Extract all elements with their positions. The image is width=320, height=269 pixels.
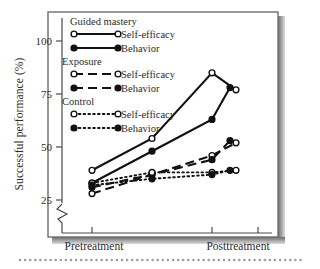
data-point-marker — [149, 176, 155, 182]
decorative-dot — [218, 259, 221, 262]
decorative-dot — [294, 259, 297, 262]
decorative-dot — [248, 259, 251, 262]
decorative-dot — [146, 259, 149, 262]
decorative-dot — [202, 259, 205, 262]
decorative-dot — [156, 259, 159, 262]
decorative-dot — [182, 259, 185, 262]
decorative-dot — [233, 259, 236, 262]
decorative-dot — [162, 259, 165, 262]
decorative-dot — [105, 259, 108, 262]
data-point-marker — [89, 191, 95, 197]
y-tick-label-50: 50 — [26, 141, 52, 153]
plot-frame — [48, 12, 278, 237]
decorative-dot — [238, 259, 241, 262]
data-point-marker — [209, 117, 215, 123]
decorative-dot — [228, 259, 231, 262]
data-point-marker — [227, 167, 233, 173]
y-tick-label-25: 25 — [26, 194, 52, 206]
decorative-dot — [141, 259, 144, 262]
legend-label-exposure-self-efficacy: Self-efficacy — [121, 69, 175, 80]
decorative-dot — [136, 259, 139, 262]
legend-label-guided-behavior: Behavior — [121, 43, 160, 54]
decorative-dot — [44, 259, 47, 262]
frame-shadow-right — [278, 16, 285, 244]
decorative-dot — [80, 259, 83, 262]
decorative-dot — [258, 259, 261, 262]
decorative-dot — [192, 259, 195, 262]
legend-label-control-behavior: Behavior — [121, 123, 160, 134]
legend-label-exposure-behavior: Behavior — [121, 83, 160, 94]
decorative-dot — [75, 259, 78, 262]
decorative-dot-row — [18, 258, 304, 262]
data-point-marker — [149, 170, 155, 176]
decorative-dot — [34, 259, 37, 262]
decorative-dot — [264, 259, 267, 262]
decorative-dot — [177, 259, 180, 262]
y-axis-title: Successful performance (%) — [13, 39, 25, 209]
decorative-dot — [151, 259, 154, 262]
decorative-dot — [39, 259, 42, 262]
data-point-marker — [149, 136, 155, 142]
legend-marker-sample — [71, 125, 77, 131]
decorative-dot — [269, 259, 272, 262]
data-point-marker — [233, 140, 239, 146]
data-point-marker — [209, 70, 215, 76]
data-point-marker — [233, 167, 239, 173]
decorative-dot — [126, 259, 129, 262]
decorative-dot — [167, 259, 170, 262]
decorative-dot — [243, 259, 246, 262]
decorative-dot — [24, 259, 27, 262]
legend-label-control-self-efficacy: Self-efficacy — [121, 109, 175, 120]
data-point-marker — [233, 87, 239, 93]
decorative-dot — [90, 259, 93, 262]
decorative-dot — [116, 259, 119, 262]
y-tick-label-75: 75 — [26, 88, 52, 100]
decorative-dot — [279, 259, 282, 262]
decorative-dot — [274, 259, 277, 262]
decorative-dot — [60, 259, 63, 262]
decorative-dot — [111, 259, 114, 262]
x-tick-label-posttreatment: Posttreatment — [196, 240, 280, 252]
legend-marker-sample — [71, 71, 77, 77]
decorative-dot — [54, 259, 57, 262]
figure-container: Successful performance (%) 100 75 50 25 … — [0, 0, 320, 269]
decorative-dot — [19, 259, 22, 262]
decorative-dot — [253, 259, 256, 262]
decorative-dot — [289, 259, 292, 262]
decorative-dot — [85, 259, 88, 262]
decorative-dot — [207, 259, 210, 262]
decorative-dot — [121, 259, 124, 262]
y-tick-label-100: 100 — [26, 35, 52, 47]
decorative-dot — [172, 259, 175, 262]
legend-marker-sample — [71, 111, 77, 117]
decorative-dot — [187, 259, 190, 262]
decorative-dot — [299, 259, 302, 262]
data-point-marker — [209, 172, 215, 178]
decorative-dot — [284, 259, 287, 262]
legend-label-guided-self-efficacy: Self-efficacy — [121, 29, 175, 40]
legend-marker-sample — [71, 45, 77, 51]
data-point-marker — [227, 85, 233, 91]
decorative-dot — [29, 259, 32, 262]
legend-marker-sample — [71, 31, 77, 37]
x-tick-label-pretreatment: Pretreatment — [56, 240, 132, 252]
decorative-dot — [70, 259, 73, 262]
decorative-dot — [213, 259, 216, 262]
data-point-marker — [89, 182, 95, 188]
data-point-marker — [227, 138, 233, 144]
decorative-dot — [131, 259, 134, 262]
decorative-dot — [100, 259, 103, 262]
decorative-dot — [65, 259, 68, 262]
legend-header-guided-mastery: Guided mastery — [70, 16, 137, 27]
decorative-dot — [223, 259, 226, 262]
legend-header-control: Control — [62, 96, 94, 107]
data-point-marker — [149, 148, 155, 154]
data-point-marker — [209, 157, 215, 163]
decorative-dot — [95, 259, 98, 262]
decorative-dot — [197, 259, 200, 262]
legend-header-exposure: Exposure — [62, 56, 102, 67]
legend-marker-sample — [71, 85, 77, 91]
data-point-marker — [89, 167, 95, 173]
decorative-dot — [49, 259, 52, 262]
